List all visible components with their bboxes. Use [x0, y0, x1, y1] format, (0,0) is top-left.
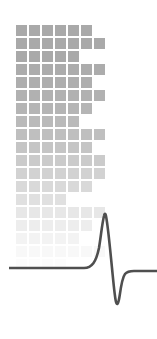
- ecg-pulse-trace: [9, 214, 157, 304]
- ecg-grid-logo: [0, 0, 157, 339]
- ecg-waveform: [0, 0, 157, 339]
